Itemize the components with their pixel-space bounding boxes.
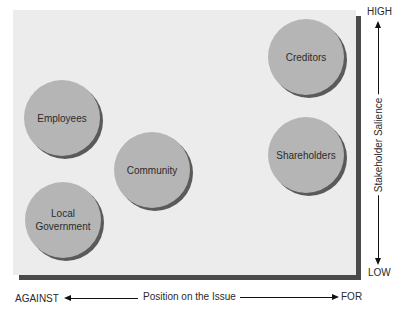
y-axis-high-label: HIGH — [367, 6, 392, 17]
x-axis-title: Position on the Issue — [143, 291, 236, 302]
bubble-label: Local Government — [35, 207, 90, 233]
arrow-down-icon — [375, 258, 381, 265]
bubble-label: Shareholders — [276, 149, 335, 162]
bubble-community: Community — [114, 132, 190, 208]
bubble-shareholders: Shareholders — [268, 117, 344, 193]
bubble-label: Community — [127, 164, 178, 177]
arrow-right-icon — [332, 294, 339, 300]
bubble-label: Employees — [37, 112, 86, 125]
x-axis-against-label: AGAINST — [15, 293, 59, 304]
bubble-local-government: Local Government — [25, 182, 101, 258]
x-axis-for-label: FOR — [341, 291, 362, 302]
y-axis-low-label: LOW — [368, 267, 391, 278]
bubble-employees: Employees — [24, 80, 100, 156]
bubble-creditors: Creditors — [268, 19, 344, 95]
bubble-label: Creditors — [286, 51, 327, 64]
x-axis-line-right — [240, 297, 333, 299]
y-axis-title: Stakeholder Salience — [373, 95, 384, 196]
x-axis-line-left — [70, 298, 138, 300]
